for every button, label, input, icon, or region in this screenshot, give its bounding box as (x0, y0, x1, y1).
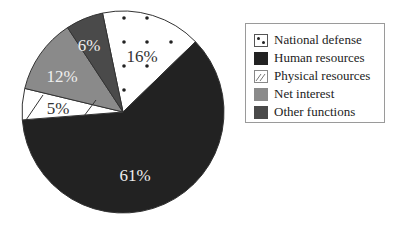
chart-legend: National defense Human resources Physica… (245, 23, 385, 123)
legend-item-physical-resources: Physical resources (254, 68, 370, 84)
hatch-swatch-icon (254, 70, 268, 83)
label-human-resources: 61% (119, 166, 150, 185)
legend-label: Other functions (274, 104, 355, 120)
legend-label: Physical resources (274, 68, 370, 84)
legend-label: National defense (274, 32, 362, 48)
legend-item-national-defense: National defense (254, 32, 362, 48)
legend-item-human-resources: Human resources (254, 50, 365, 66)
dot-pattern-mark (122, 64, 126, 68)
dot-pattern-mark (145, 40, 149, 44)
label-national-defense: 16% (126, 47, 157, 66)
label-physical-resources: 5% (47, 99, 70, 118)
legend-label: Human resources (274, 50, 365, 66)
dot-pattern-mark (122, 40, 126, 44)
dots-swatch-icon (254, 34, 268, 47)
dot-pattern-mark (145, 16, 149, 20)
gray-swatch-icon (254, 88, 268, 101)
darkgray-swatch-icon (254, 106, 268, 119)
dark-swatch-icon (254, 52, 268, 65)
legend-label: Net interest (274, 86, 334, 102)
label-other-functions: 6% (78, 36, 101, 55)
dot-pattern-mark (169, 40, 173, 44)
legend-item-net-interest: Net interest (254, 86, 334, 102)
dot-pattern-mark (122, 88, 126, 92)
label-net-interest: 12% (46, 67, 77, 86)
dot-pattern-mark (122, 16, 126, 20)
legend-item-other-functions: Other functions (254, 104, 355, 120)
